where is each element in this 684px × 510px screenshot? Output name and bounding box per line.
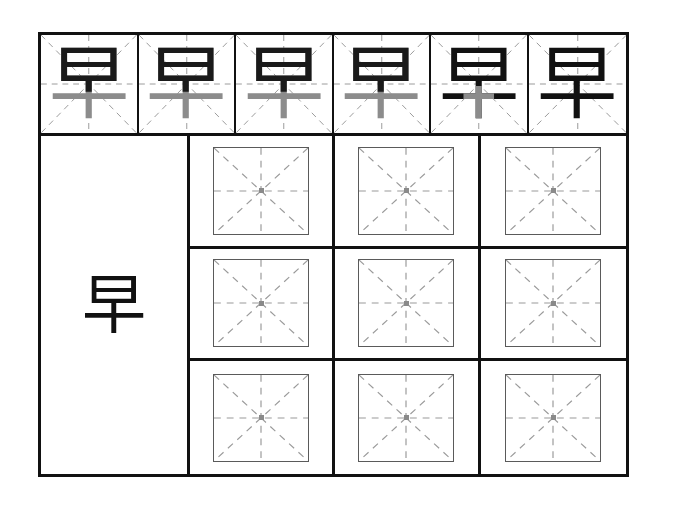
practice-worksheet: 早 早 早 早 — [38, 32, 629, 477]
center-dot — [551, 301, 556, 306]
demo-glyph-5: 早 早 — [431, 35, 527, 133]
glyph-layer-base: 早 — [529, 35, 627, 133]
demo-cell-4[interactable]: 早 早 — [334, 35, 432, 133]
demo-cell-6[interactable]: 早 — [529, 35, 627, 133]
practice-cell-r1c1[interactable] — [190, 136, 335, 249]
center-dot — [404, 415, 409, 420]
center-dot — [259, 188, 264, 193]
demo-glyph-1: 早 早 — [41, 35, 137, 133]
demo-glyph-3: 早 早 — [236, 35, 332, 133]
demo-cell-3[interactable]: 早 早 — [236, 35, 334, 133]
center-dot — [259, 415, 264, 420]
mi-zi-ge-box — [358, 259, 454, 347]
center-dot — [404, 188, 409, 193]
mi-zi-ge-box — [505, 374, 601, 462]
practice-cell-r1c3[interactable] — [481, 136, 626, 249]
practice-grid — [190, 136, 626, 474]
practice-cell-r3c1[interactable] — [190, 361, 335, 474]
model-character-cell[interactable]: 早 — [41, 136, 190, 474]
mi-zi-ge-box — [505, 147, 601, 235]
center-dot — [404, 301, 409, 306]
mi-zi-ge-box — [213, 147, 309, 235]
model-glyph: 早 — [82, 273, 146, 337]
mi-zi-ge-box — [358, 374, 454, 462]
demo-cell-1[interactable]: 早 早 — [41, 35, 139, 133]
mi-zi-ge-box — [358, 147, 454, 235]
practice-cell-r3c3[interactable] — [481, 361, 626, 474]
stroke-order-demo-row: 早 早 早 早 — [41, 35, 626, 133]
center-dot — [259, 301, 264, 306]
practice-cell-r2c2[interactable] — [335, 249, 480, 362]
demo-glyph-2: 早 早 — [139, 35, 235, 133]
mi-zi-ge-box — [213, 259, 309, 347]
practice-cell-r2c1[interactable] — [190, 249, 335, 362]
lower-section: 早 — [41, 136, 626, 474]
mi-zi-ge-box — [505, 259, 601, 347]
demo-glyph-6: 早 — [529, 35, 627, 133]
mi-zi-ge-box — [213, 374, 309, 462]
demo-cell-5[interactable]: 早 早 — [431, 35, 529, 133]
demo-cell-2[interactable]: 早 早 — [139, 35, 237, 133]
practice-cell-r1c2[interactable] — [335, 136, 480, 249]
practice-cell-r2c3[interactable] — [481, 249, 626, 362]
demo-glyph-4: 早 早 — [334, 35, 430, 133]
center-dot — [551, 415, 556, 420]
center-dot — [551, 188, 556, 193]
practice-cell-r3c2[interactable] — [335, 361, 480, 474]
